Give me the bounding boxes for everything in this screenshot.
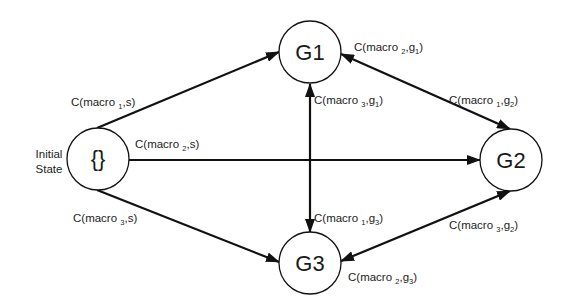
node-g3-label: G3 <box>295 251 324 276</box>
node-initial-label: {} <box>91 146 106 171</box>
label-macro2-s: C(macro 2,s) <box>135 138 199 153</box>
edge-g1-g2 <box>341 54 510 129</box>
initial-state-label-line1: Initial <box>36 148 63 160</box>
edge-initial-g1 <box>97 52 279 128</box>
label-macro3-g2: C(macro 3,g2) <box>449 219 518 234</box>
node-g3: G3 <box>279 232 341 294</box>
label-macro1-s: C(macro 1,s) <box>71 96 135 111</box>
node-g2-label: G2 <box>496 148 525 173</box>
label-macro1-g3: C(macro 1,g3) <box>314 212 383 227</box>
label-macro2-g1: C(macro 2,g1) <box>354 41 423 56</box>
label-macro3-g1: C(macro 3,g1) <box>314 94 383 109</box>
node-g1: G1 <box>279 21 341 83</box>
node-initial-state: {} <box>67 128 129 190</box>
initial-state-label-line2: State <box>36 163 63 175</box>
label-macro2-g3: C(macro 2,g3) <box>348 271 417 286</box>
state-diagram: {} Initial State G1 G2 G3 C(macro 1,s) C… <box>0 0 567 306</box>
node-g1-label: G1 <box>295 40 324 65</box>
label-macro3-s: C(macro 3,s) <box>73 212 137 227</box>
node-g2: G2 <box>480 129 542 191</box>
